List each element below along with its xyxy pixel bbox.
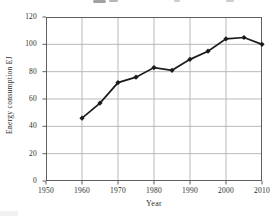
- x-axis-title: Year: [124, 199, 184, 209]
- cropped-title-fragment: [226, 0, 234, 2]
- cropped-title-fragment: [174, 0, 180, 2]
- y-tick-label: 40: [1, 121, 37, 131]
- chart-canvas: [46, 17, 262, 181]
- y-tick-label: 0: [1, 176, 37, 186]
- cropped-title-fragment: [93, 0, 106, 3]
- y-tick-label: 80: [1, 67, 37, 77]
- x-tick-label: 1990: [175, 186, 205, 196]
- x-tick-label: 1980: [139, 186, 169, 196]
- x-tick-label: 1960: [67, 186, 97, 196]
- page-edge-artifact: [0, 211, 18, 216]
- y-tick-label: 20: [1, 149, 37, 159]
- cropped-title-fragment: [109, 0, 118, 2]
- x-tick-label: 1950: [31, 186, 61, 196]
- y-tick-label: 60: [1, 94, 37, 104]
- data-point-marker: [259, 42, 264, 47]
- energy-consumption-line: [82, 38, 262, 119]
- y-tick-label: 120: [1, 12, 37, 22]
- x-tick-label: 2010: [247, 186, 274, 196]
- x-tick-label: 1970: [103, 186, 133, 196]
- x-tick-label: 2000: [211, 186, 241, 196]
- data-point-marker: [241, 35, 246, 40]
- y-tick-label: 100: [1, 39, 37, 49]
- scanned-chart-figure: Energy consumption EJ Year 0204060801001…: [0, 0, 274, 221]
